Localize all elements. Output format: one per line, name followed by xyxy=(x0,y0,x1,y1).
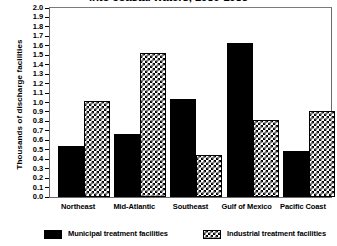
bar-group xyxy=(114,8,166,197)
legend-entry: Municipal treatment facilities xyxy=(44,228,168,240)
bar xyxy=(84,101,110,197)
legend-label: Municipal treatment facilities xyxy=(68,229,168,239)
x-axis-labels: NortheastMid-AtlanticSoutheastGulf of Me… xyxy=(50,202,331,214)
bar xyxy=(58,146,84,197)
legend-swatch-industrial xyxy=(203,230,221,239)
bar xyxy=(283,151,309,197)
bar xyxy=(196,155,222,197)
legend-label: Industrial treatment facilities xyxy=(227,229,326,239)
bars-layer xyxy=(50,8,331,197)
bar xyxy=(253,120,279,197)
y-axis-ticks: 2.01.91.81.71.61.51.41.31.21.11.00.90.80… xyxy=(0,7,49,198)
y-tick: 0.0 xyxy=(33,192,49,202)
bar-group xyxy=(227,8,279,197)
bar-group xyxy=(58,8,110,197)
chart-title-line: into coastal waters, 1980-1985 xyxy=(0,0,337,3)
bar xyxy=(140,53,166,197)
bar xyxy=(170,99,196,197)
y-tick-label: 0.0 xyxy=(33,192,43,202)
bar-group xyxy=(283,8,335,197)
bar xyxy=(227,43,253,197)
bar-group xyxy=(170,8,222,197)
x-axis-label: Pacific Coast xyxy=(258,202,337,211)
bar-chart: into coastal waters, 1980-1985 Thousands… xyxy=(0,0,337,246)
chart-title: into coastal waters, 1980-1985 xyxy=(0,0,337,3)
legend-swatch-municipal xyxy=(44,230,62,239)
bar xyxy=(114,134,140,197)
bar xyxy=(309,111,335,197)
chart-legend: Municipal treatment facilitiesIndustrial… xyxy=(0,228,337,242)
legend-entry: Industrial treatment facilities xyxy=(203,228,326,240)
